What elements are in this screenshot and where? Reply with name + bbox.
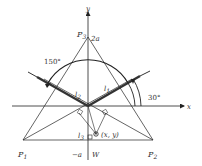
angle-150-label: 150°: [44, 58, 61, 66]
angle-30-label: 30°: [148, 94, 160, 102]
y-axis-label: y: [85, 5, 91, 13]
right-angle-marker-bottom: [88, 135, 92, 139]
weight-label: W: [92, 151, 100, 159]
bar-l1-extension: [140, 71, 150, 76]
apex-value-label: 2a: [90, 35, 100, 43]
arc-30-second: [133, 79, 141, 106]
bottom-value-label: −a: [72, 151, 82, 159]
p1-label: P1: [17, 150, 27, 160]
diagram-canvas: y x P3 2a 150° 30° l2 l1 l3 (x, y) P1 P2…: [0, 0, 202, 166]
bar-l2-extension: [28, 72, 37, 77]
x-axis-label: x: [187, 103, 191, 111]
bar-l2: [37, 77, 88, 106]
point-xy-label: (x, y): [101, 131, 119, 139]
drop-perp-1: [79, 113, 96, 134]
p3-label: P3: [76, 30, 86, 40]
l1-label: l1: [104, 85, 110, 94]
drop-left: [88, 106, 96, 134]
p2-label: P2: [147, 150, 157, 160]
l3-label: l3: [78, 132, 84, 141]
line-p2-upper: [44, 79, 153, 140]
point-xy-center: [95, 133, 96, 134]
l2-label: l2: [75, 91, 81, 100]
